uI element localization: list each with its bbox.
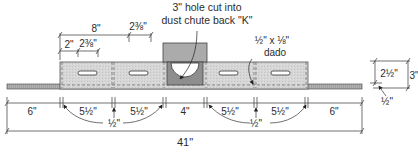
dado-note-line1: ½" x ⅛" (255, 35, 290, 46)
slot-4 (271, 71, 290, 75)
dim-2in: 2" (64, 39, 74, 50)
dim-dado-right: ½" (250, 118, 262, 129)
dim-slot-upper: 2⅜" (129, 21, 147, 32)
dim-seg-1: 5½" (79, 106, 97, 117)
dust-collection-diagram: 3" hole cut into dust chute back "K" ½" … (0, 0, 418, 153)
dim-panel-height: 2½" (380, 68, 398, 79)
dim-seg-4: 5½" (271, 106, 289, 117)
hole-note-line1: 3" hole cut into (172, 1, 241, 13)
slot-3 (219, 71, 238, 75)
dim-dado-left: ½" (108, 118, 120, 129)
dim-center: 4" (180, 106, 190, 117)
dim-overall: 41" (177, 136, 193, 148)
dim-8in: 8" (91, 23, 101, 34)
dim-base-thickness: ½" (381, 96, 393, 107)
dim-overall-height: 3" (409, 70, 418, 81)
dust-chute-back (163, 43, 207, 85)
dim-left-margin: 6" (27, 106, 37, 117)
dim-seg-3: 5½" (221, 106, 239, 117)
dim-slot-lower: 2⅜" (79, 38, 97, 49)
dim-seg-2: 5½" (130, 106, 148, 117)
slot-2 (129, 71, 148, 75)
dim-right-margin: 6" (329, 106, 339, 117)
dado-note-line2: dado (264, 47, 287, 58)
slot-1 (78, 71, 97, 75)
hole-note-line2: dust chute back "K" (162, 14, 253, 26)
